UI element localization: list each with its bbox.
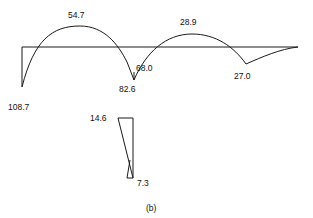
moment-curve-span-3	[246, 47, 298, 64]
shear-diagonal-main	[118, 118, 133, 178]
label-moment-27-0: 27.0	[234, 71, 251, 81]
label-moment-54-7: 54.7	[68, 10, 85, 20]
figure-container: 108.7 54.7 68.0 82.6 28.9 27.0 14.6 7.3	[0, 0, 313, 218]
label-moment-108-7: 108.7	[8, 102, 30, 112]
diagram-svg: 108.7 54.7 68.0 82.6 28.9 27.0 14.6 7.3	[0, 0, 313, 218]
figure-caption: (b)	[146, 203, 157, 213]
bending-moment-diagram: 108.7 54.7 68.0 82.6 28.9 27.0	[8, 10, 298, 112]
label-shear-7-3: 7.3	[137, 178, 149, 188]
label-moment-68-0: 68.0	[136, 63, 153, 73]
shear-force-diagram: 14.6 7.3	[90, 113, 149, 188]
moment-curve-span-1	[22, 26, 134, 87]
label-shear-14-6: 14.6	[90, 113, 107, 123]
shear-diagonal-lower	[127, 160, 130, 178]
label-moment-82-6: 82.6	[119, 84, 136, 94]
moment-curve-span-2	[134, 34, 246, 80]
label-moment-28-9: 28.9	[180, 17, 197, 27]
